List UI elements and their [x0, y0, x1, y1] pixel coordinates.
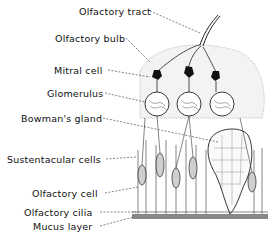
label-mucus-layer: Mucus layer: [33, 221, 92, 232]
label-olfactory-cilia: Olfactory cilia: [24, 207, 93, 218]
label-olfactory-tract: Olfactory tract: [79, 6, 151, 17]
label-glomerulus: Glomerulus: [47, 88, 103, 99]
label-mitral-cell: Mitral cell: [54, 65, 103, 76]
mucus-layer-shape: [132, 214, 268, 219]
label-bowmans-gland: Bowman's gland: [21, 113, 102, 124]
label-olfactory-cell: Olfactory cell: [32, 188, 98, 199]
label-olfactory-bulb: Olfactory bulb: [55, 33, 125, 44]
glomeruli: [145, 92, 234, 116]
label-sustentacular-cells: Sustentacular cells: [7, 154, 101, 165]
